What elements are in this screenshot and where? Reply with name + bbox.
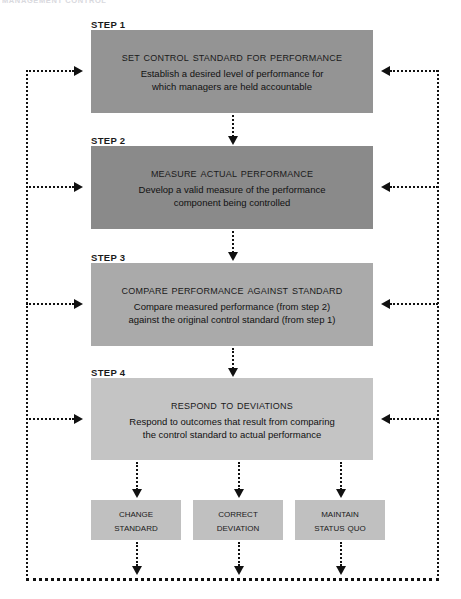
step-desc-3-line2: against the original control standard (f… <box>129 314 336 325</box>
step-desc-4-line2: the control standard to actual performan… <box>143 429 322 440</box>
control-process-diagram: MANAGEMENT CONTROL STEP 1 STEP 2 <box>0 0 461 599</box>
outcome-change-standard-line1: Change <box>119 507 153 519</box>
outcome-text-correct-deviation: Correct Deviation <box>217 506 260 534</box>
outcome-correct-deviation-line2: Deviation <box>217 521 260 533</box>
outcome-text-maintain-status-quo: Maintain Status Quo <box>314 506 366 534</box>
flow-line-step4-maintain-status-quo <box>340 462 342 490</box>
feedback-line-right-step1 <box>390 70 438 72</box>
flow-arrow-step4-maintain-status-quo <box>336 489 346 498</box>
feedback-arrow-right-step1 <box>381 66 390 76</box>
flow-arrow-correct-deviation-to-rail <box>234 566 244 575</box>
outcome-maintain-status-quo-line2: Status Quo <box>314 521 366 533</box>
outcome-box-change-standard[interactable]: Change Standard <box>91 500 181 540</box>
step-label-1: STEP 1 <box>91 19 125 30</box>
step-label-3: STEP 3 <box>91 252 125 263</box>
step-desc-2-line2: component being controlled <box>174 197 291 208</box>
right-feedback-rail <box>437 70 439 580</box>
flow-line-maintain-status-quo-to-rail <box>340 542 342 566</box>
step-label-4: STEP 4 <box>91 367 125 378</box>
outcome-change-standard-line2: Standard <box>114 521 157 533</box>
step-desc-4: Respond to outcomes that result from com… <box>117 415 346 441</box>
step-desc-1-line1: Establish a desired level of performance… <box>141 68 324 79</box>
feedback-arrow-left-step1 <box>74 66 83 76</box>
feedback-arrow-left-step4 <box>74 414 83 424</box>
flow-arrow-step4-change-standard <box>132 489 142 498</box>
outcome-box-maintain-status-quo[interactable]: Maintain Status Quo <box>295 500 385 540</box>
page-running-header: MANAGEMENT CONTROL <box>2 0 202 6</box>
feedback-arrow-right-step2 <box>381 182 390 192</box>
step-box-1[interactable]: Set Control Standard for Performance Est… <box>91 30 373 113</box>
feedback-line-left-step4 <box>26 418 74 420</box>
feedback-arrow-right-step3 <box>381 299 390 309</box>
step-desc-1-line2: which managers are held accountable <box>152 81 312 92</box>
outcome-maintain-status-quo-line1: Maintain <box>321 507 359 519</box>
flow-line-change-standard-to-rail <box>136 542 138 566</box>
step-desc-2-line1: Develop a valid measure of the performan… <box>139 184 326 195</box>
flow-line-step3-step4 <box>232 348 234 369</box>
step-desc-3-line1: Compare measured performance (from step … <box>134 301 330 312</box>
step-box-4[interactable]: Respond to Deviations Respond to outcome… <box>91 378 373 460</box>
flow-arrow-step3-step4 <box>228 368 238 377</box>
step-title-1: Set Control Standard for Performance <box>122 50 342 64</box>
feedback-line-right-step3 <box>390 303 438 305</box>
feedback-line-left-step2 <box>26 186 74 188</box>
feedback-line-left-step3 <box>26 303 74 305</box>
flow-line-step1-step2 <box>232 115 234 137</box>
flow-line-step2-step3 <box>232 231 234 253</box>
feedback-arrow-right-step4 <box>381 414 390 424</box>
feedback-line-left-step1 <box>26 70 74 72</box>
feedback-arrow-left-step3 <box>74 299 83 309</box>
outcome-text-change-standard: Change Standard <box>114 506 157 534</box>
flow-line-correct-deviation-to-rail <box>238 542 240 566</box>
outcome-box-correct-deviation[interactable]: Correct Deviation <box>193 500 283 540</box>
flow-arrow-step2-step3 <box>228 252 238 261</box>
flow-line-step4-correct-deviation <box>238 462 240 490</box>
step-title-4: Respond to Deviations <box>171 398 293 412</box>
step-title-3: Compare Performance Against Standard <box>122 283 343 297</box>
step-desc-1: Establish a desired level of performance… <box>129 67 336 93</box>
step-box-3[interactable]: Compare Performance Against Standard Com… <box>91 263 373 346</box>
flow-line-step4-change-standard <box>136 462 138 490</box>
feedback-line-right-step2 <box>390 186 438 188</box>
step-desc-2: Develop a valid measure of the performan… <box>127 183 338 209</box>
flow-arrow-change-standard-to-rail <box>132 566 142 575</box>
step-title-2: Measure Actual Performance <box>151 166 313 180</box>
step-box-2[interactable]: Measure Actual Performance Develop a val… <box>91 146 373 229</box>
flow-arrow-step1-step2 <box>228 136 238 145</box>
left-feedback-rail <box>26 70 28 580</box>
outcome-correct-deviation-line1: Correct <box>218 507 258 519</box>
feedback-arrow-left-step2 <box>74 182 83 192</box>
bottom-feedback-rail <box>26 578 439 581</box>
flow-arrow-maintain-status-quo-to-rail <box>336 566 346 575</box>
step-label-2: STEP 2 <box>91 135 125 146</box>
step-desc-3: Compare measured performance (from step … <box>117 300 348 326</box>
feedback-line-right-step4 <box>390 418 438 420</box>
flow-arrow-step4-correct-deviation <box>234 489 244 498</box>
step-desc-4-line1: Respond to outcomes that result from com… <box>129 416 334 427</box>
